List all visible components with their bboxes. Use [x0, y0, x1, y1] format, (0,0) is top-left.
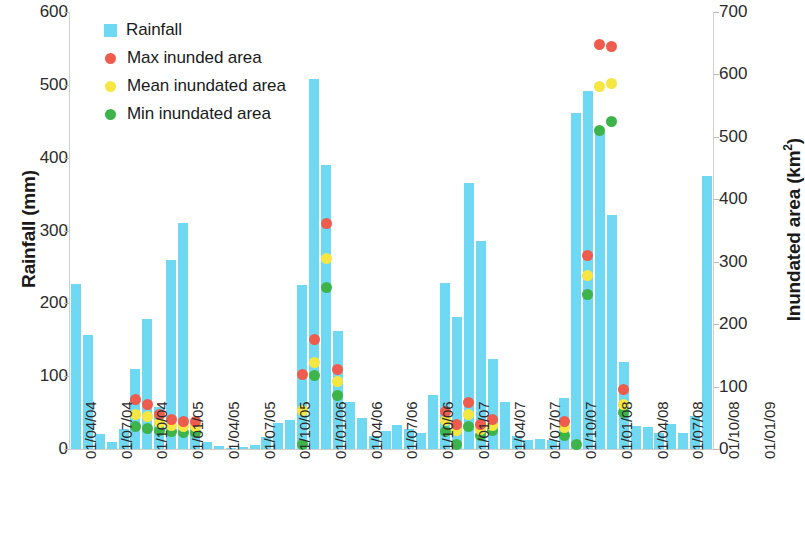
y-axis-left-tickmark — [64, 449, 69, 450]
y-axis-right-title-close: ) — [783, 138, 804, 144]
y-axis-right-tickmark — [714, 324, 719, 325]
y-axis-right-tick-label: 200 — [719, 315, 779, 332]
legend-item: Max inunded area — [104, 44, 286, 72]
y-axis-right-tickmark — [714, 387, 719, 388]
y-axis-left-tick-label: 400 — [8, 149, 68, 166]
legend-square-icon — [104, 24, 117, 37]
y-axis-left-tickmark — [64, 85, 69, 86]
y-axis-right-tickmark — [714, 137, 719, 138]
data-point-max — [178, 416, 189, 427]
legend-dot-icon — [105, 109, 116, 120]
bar — [250, 445, 260, 449]
y-axis-right-tick-label: 500 — [719, 128, 779, 145]
x-axis-tick-label: 01/01/09 — [761, 401, 778, 459]
x-axis-tick-label: 01/07/07 — [546, 401, 563, 459]
y-axis-left-tick-label: 500 — [8, 76, 68, 93]
y-axis-left-tick-label: 200 — [8, 294, 68, 311]
bar — [428, 395, 438, 449]
y-axis-left-tickmark — [64, 158, 69, 159]
y-axis-left-tick-label: 300 — [8, 222, 68, 239]
legend-item: Mean inundated area — [104, 72, 286, 100]
bar — [678, 433, 688, 449]
bar — [321, 165, 331, 449]
legend-item: Rainfall — [104, 16, 286, 44]
y-axis-right-title-text: Inundated area (km — [783, 151, 804, 322]
data-point-max — [297, 369, 308, 380]
bar — [357, 418, 367, 449]
data-point-max — [594, 39, 605, 50]
data-point-mean — [594, 81, 605, 92]
y-axis-right-tick-label: 300 — [719, 253, 779, 270]
bar — [285, 420, 295, 449]
legend-dot-icon — [105, 81, 116, 92]
y-axis-left-tickmark — [64, 303, 69, 304]
data-point-max — [321, 218, 332, 229]
data-point-mean — [321, 253, 332, 264]
y-axis-right-tickmark — [714, 262, 719, 263]
legend-label: Mean inundated area — [127, 76, 286, 96]
y-axis-right-tick-label: 600 — [719, 65, 779, 82]
x-axis-tick-label: 01/07/08 — [689, 401, 706, 459]
y-axis-left-tick-label: 100 — [8, 367, 68, 384]
x-axis-tick-label: 01/10/05 — [296, 401, 313, 459]
legend-item: Min inundated area — [104, 100, 286, 128]
data-point-min — [142, 423, 153, 434]
bar — [107, 442, 117, 449]
y-axis-right-tick-label: 100 — [719, 378, 779, 395]
data-point-max — [309, 334, 320, 345]
x-axis-tick-label: 01/01/05 — [189, 401, 206, 459]
x-axis-tick-label: 01/07/06 — [403, 401, 420, 459]
y-axis-right-tickmark — [714, 199, 719, 200]
legend-dot-icon — [105, 53, 116, 64]
x-axis-tick-label: 01/04/08 — [654, 401, 671, 459]
x-axis-tick-label: 01/01/06 — [332, 401, 349, 459]
x-axis-tick-label: 01/04/04 — [82, 401, 99, 459]
legend-label: Rainfall — [126, 20, 182, 40]
x-axis-tick-label: 01/04/05 — [225, 401, 242, 459]
x-axis-tick-label: 01/01/08 — [618, 401, 635, 459]
legend-label: Max inunded area — [127, 48, 262, 68]
x-axis-tick-label: 01/10/07 — [582, 401, 599, 459]
x-axis-tick-label: 01/01/07 — [475, 401, 492, 459]
data-point-mean — [606, 78, 617, 89]
y-axis-right-tickmark — [714, 12, 719, 13]
y-axis-left-tick-label: 600 — [8, 3, 68, 20]
y-axis-right-tickmark — [714, 449, 719, 450]
y-axis-right-tick-label: 400 — [719, 190, 779, 207]
bar — [500, 402, 510, 449]
y-axis-right-tickmark — [714, 74, 719, 75]
x-axis-tick-label: 01/07/04 — [118, 401, 135, 459]
data-point-max — [142, 399, 153, 410]
y-axis-left-tick-label: 0 — [8, 440, 68, 457]
bar — [643, 427, 653, 449]
x-axis-tick-label: 01/10/08 — [725, 401, 742, 459]
legend-label: Min inundated area — [127, 104, 271, 124]
y-axis-right-tick-label: 700 — [719, 3, 779, 20]
data-point-min — [321, 282, 332, 293]
x-axis-tick-label: 01/07/05 — [261, 401, 278, 459]
x-axis-tick-label: 01/04/07 — [511, 401, 528, 459]
bar — [607, 215, 617, 449]
data-point-min — [606, 116, 617, 127]
bar — [392, 425, 402, 449]
x-axis-tick-label: 01/04/06 — [368, 401, 385, 459]
y-axis-right-title: Inundated area (km2) — [781, 105, 804, 355]
bar — [535, 439, 545, 449]
x-axis-tick-label: 01/10/06 — [439, 401, 456, 459]
y-axis-left-tickmark — [64, 376, 69, 377]
y-axis-left-tickmark — [64, 231, 69, 232]
bar — [309, 79, 319, 449]
y-axis-right-line — [713, 12, 714, 450]
bar — [571, 113, 581, 449]
data-point-max — [606, 41, 617, 52]
data-point-mean — [142, 411, 153, 422]
x-axis-tick-label: 01/10/04 — [153, 401, 170, 459]
chart-legend: RainfallMax inunded areaMean inundated a… — [104, 16, 286, 128]
bar — [71, 284, 81, 449]
data-point-min — [571, 439, 582, 450]
y-axis-left-tickmark — [64, 12, 69, 13]
data-point-mean — [309, 357, 320, 368]
superscript-two: 2 — [781, 144, 795, 150]
data-point-max — [332, 364, 343, 375]
